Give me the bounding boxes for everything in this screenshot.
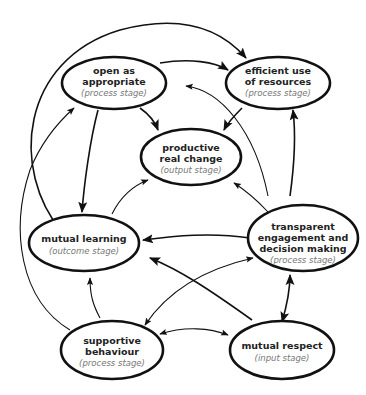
node-label-line-2: real change: [160, 153, 223, 164]
diagram-canvas: open as appropriate (process stage) effi…: [0, 0, 366, 395]
edge-open-to-learning: [82, 110, 98, 212]
node-productive-real-change: productive real change (output stage): [141, 129, 241, 185]
node-stage: (output stage): [161, 165, 222, 175]
node-mutual-respect: mutual respect (input stage): [230, 321, 334, 379]
edge-transparent-to-efficient: [290, 110, 295, 196]
edge-open-to-efficient: [160, 61, 228, 70]
node-stage: (input stage): [255, 353, 310, 363]
node-label-line-1: transparent: [271, 221, 335, 232]
edge-transparent-to-productive: [234, 183, 268, 212]
node-label-line-2: engagement and: [258, 232, 349, 243]
node-label-line-3: decision making: [259, 243, 346, 254]
node-label-line-1: open as: [93, 65, 135, 76]
node-label-line-1: mutual learning: [41, 233, 126, 244]
edge-efficient-to-productive: [224, 108, 242, 130]
edge-open-to-productive: [140, 108, 158, 130]
node-transparent-engagement: transparent engagement and decision maki…: [248, 205, 358, 271]
node-label-line-1: productive: [162, 142, 220, 153]
edge-supportive-respect: [160, 329, 228, 335]
node-label-line-2: behaviour: [85, 346, 139, 357]
node-label-line-1: mutual respect: [241, 340, 323, 351]
edge-learning-to-productive: [112, 180, 148, 214]
node-stage: (process stage): [81, 88, 147, 98]
node-mutual-learning: mutual learning (outcome stage): [29, 215, 139, 271]
node-label-line-1: supportive: [83, 335, 141, 346]
edge-learning-to-efficient-outer: [31, 23, 246, 232]
node-stage: (process stage): [79, 358, 145, 368]
node-stage: (process stage): [245, 88, 311, 98]
edge-transparent-supportive: [145, 258, 253, 325]
edge-respect-transparent: [282, 275, 290, 322]
edge-supportive-to-learning: [90, 278, 100, 318]
node-label-line-1: efficient use: [245, 65, 311, 76]
edge-respect-to-learning: [150, 258, 252, 320]
node-open-as-appropriate: open as appropriate (process stage): [62, 57, 166, 109]
node-stage: (outcome stage): [49, 246, 119, 256]
node-stage: (process stage): [270, 255, 336, 265]
node-label-line-2: of resources: [245, 76, 312, 87]
node-label-line-2: appropriate: [82, 76, 145, 87]
edge-transparent-to-learning: [143, 235, 250, 240]
node-supportive-behaviour: supportive behaviour (process stage): [61, 321, 163, 379]
node-efficient-use-of-resources: efficient use of resources (process stag…: [226, 57, 330, 109]
